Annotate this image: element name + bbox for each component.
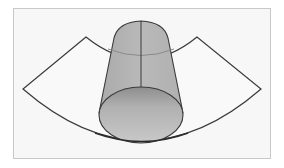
diagram-svg — [0, 0, 284, 168]
diagram-canvas: Cylinder (truncated cone) standing insid… — [0, 0, 284, 168]
cylinder-base — [99, 87, 183, 143]
